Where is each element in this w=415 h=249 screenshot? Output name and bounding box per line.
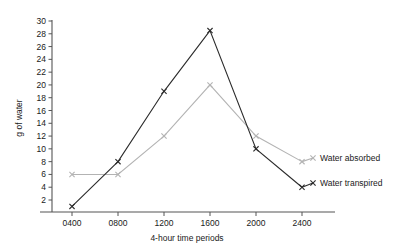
data-point-marker <box>161 133 166 138</box>
series-line <box>72 85 302 175</box>
x-tick-label: 1600 <box>201 218 220 228</box>
data-point-marker <box>253 146 258 151</box>
x-tick-label: 2400 <box>293 218 312 228</box>
y-tick-label: 18 <box>37 93 47 103</box>
data-point-marker <box>299 185 304 190</box>
series-1 <box>69 82 315 177</box>
legend-marker <box>310 180 315 185</box>
x-tick-label: 0400 <box>63 218 82 228</box>
y-tick-label: 4 <box>41 182 46 192</box>
legend-label-2: Water transpired <box>320 178 383 188</box>
data-point-marker <box>69 204 74 209</box>
y-tick-label: 14 <box>37 118 47 128</box>
y-tick-label: 30 <box>37 16 47 26</box>
y-tick-label: 12 <box>37 131 47 141</box>
data-point-marker <box>253 133 258 138</box>
x-axis-title: 4-hour time periods <box>150 233 223 243</box>
x-tick-label: 1200 <box>155 218 174 228</box>
data-point-marker <box>299 159 304 164</box>
series-line <box>72 31 302 207</box>
y-tick-label: 24 <box>37 54 47 64</box>
y-axis-title: g of water <box>14 99 24 136</box>
legend-marker <box>310 155 315 160</box>
series-2 <box>69 28 315 209</box>
y-tick-label: 8 <box>41 157 46 167</box>
y-tick-label: 6 <box>41 169 46 179</box>
y-tick-label: 16 <box>37 106 47 116</box>
y-tick-label: 26 <box>37 42 47 52</box>
y-tick-label: 2 <box>41 195 46 205</box>
water-balance-line-chart: 24681012141618202224262830g of water0400… <box>0 0 415 249</box>
x-tick-label: 0800 <box>109 218 128 228</box>
y-tick-label: 28 <box>37 29 47 39</box>
y-tick-label: 20 <box>37 80 47 90</box>
x-tick-label: 2000 <box>247 218 266 228</box>
chart-canvas: 24681012141618202224262830g of water0400… <box>0 0 415 249</box>
data-point-marker <box>207 82 212 87</box>
y-tick-label: 10 <box>37 144 47 154</box>
data-point-marker <box>161 89 166 94</box>
data-point-marker <box>207 28 212 33</box>
y-tick-label: 22 <box>37 67 47 77</box>
legend-label-1: Water absorbed <box>320 153 380 163</box>
data-point-marker <box>115 159 120 164</box>
